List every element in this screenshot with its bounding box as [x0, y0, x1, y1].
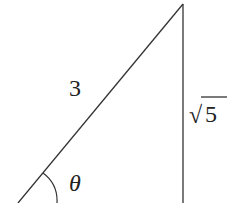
- hypotenuse-label: 3: [69, 75, 81, 101]
- opposite-side-label: 5: [205, 101, 217, 127]
- angle-arc: [43, 173, 57, 203]
- angle-theta-label: θ: [69, 170, 81, 196]
- triangle-diagram: 3 √ 5 θ: [0, 0, 233, 203]
- hypotenuse-line: [18, 4, 183, 203]
- radical-sign: √: [189, 102, 203, 128]
